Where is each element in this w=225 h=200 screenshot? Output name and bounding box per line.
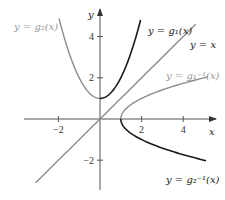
label-g2: y = g₂(x) [13, 21, 58, 32]
label-g1: y = g₁(x) [147, 25, 192, 36]
x-tick-label: 4 [181, 124, 186, 135]
curve-g1-inverse [121, 77, 208, 119]
y-tick-label: 4 [89, 31, 94, 42]
x-tick-label: 2 [139, 124, 144, 135]
y-axis-label: y [87, 9, 94, 20]
label-g1-inverse: y = g₁⁻¹(x) [165, 70, 220, 81]
y-tick-label: 2 [89, 72, 94, 83]
x-tick-label: −2 [53, 124, 64, 135]
curve-g2-inverse [121, 119, 206, 161]
curve-g1 [100, 20, 141, 98]
label-identity: y = x [189, 39, 216, 50]
function-diagram: x y −224 −224 y = g₂(x) y = g₁(x) y = x … [0, 0, 225, 200]
x-axis-label: x [209, 126, 215, 137]
curve-identity [36, 24, 196, 183]
y-tick-label: −2 [83, 155, 94, 166]
label-g2-inverse: y = g₂⁻¹(x) [165, 174, 220, 185]
